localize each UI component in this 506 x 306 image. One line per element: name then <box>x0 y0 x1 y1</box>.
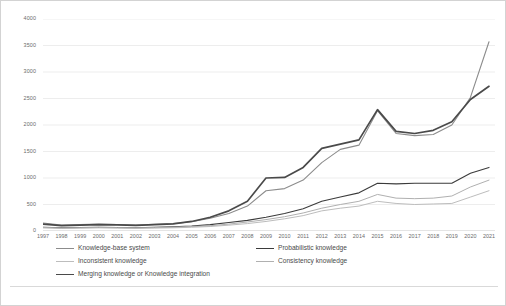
x-axis-tick-label: 2011 <box>294 234 312 239</box>
legend-item[interactable]: Merging knowledge or Knowledge integrati… <box>56 269 210 279</box>
x-axis-tick-label: 2008 <box>238 234 256 239</box>
x-axis-tick-label: 2006 <box>201 234 219 239</box>
y-axis-tick-label: 4000 <box>10 16 36 21</box>
legend-swatch-icon <box>56 248 74 249</box>
x-axis-tick-label: 1997 <box>34 234 52 239</box>
legend-swatch-icon <box>256 261 274 262</box>
series-paths <box>43 42 489 229</box>
x-axis-tick-label: 1998 <box>53 234 71 239</box>
legend-item-label: Probabilistic knowledge <box>278 245 347 252</box>
legend-item[interactable]: Probabilistic knowledge <box>256 243 347 253</box>
legend-item[interactable]: Consistency knowledge <box>256 256 347 266</box>
legend-item-label: Merging knowledge or Knowledge integrati… <box>78 271 210 278</box>
legend-item-label: Knowledge-base system <box>78 245 150 252</box>
x-axis-tick-label: 2007 <box>220 234 238 239</box>
y-axis-tick-label: 2000 <box>10 122 36 127</box>
plot-area <box>43 19 495 231</box>
legend-item-label: Inconsistent knowledge <box>78 258 147 265</box>
x-axis-tick-label: 2010 <box>276 234 294 239</box>
y-axis-tick-label: 500 <box>10 202 36 207</box>
legend-divider <box>10 286 498 287</box>
legend-item-label: Consistency knowledge <box>278 258 347 265</box>
y-axis-tick-label: 3500 <box>10 43 36 48</box>
x-axis-tick-label: 2013 <box>331 234 349 239</box>
x-axis-tick-label: 2018 <box>424 234 442 239</box>
x-axis-tick-label: 2015 <box>369 234 387 239</box>
x-axis-tick-label: 2004 <box>164 234 182 239</box>
y-axis-tick-label: 1000 <box>10 175 36 180</box>
legend-item[interactable]: Knowledge-base system <box>56 243 150 253</box>
legend-swatch-icon <box>56 261 74 262</box>
x-axis-tick-label: 2001 <box>108 234 126 239</box>
x-axis-tick-label: 2009 <box>257 234 275 239</box>
series-line <box>43 167 489 227</box>
legend-item[interactable]: Inconsistent knowledge <box>56 256 147 266</box>
x-axis-tick-label: 2005 <box>183 234 201 239</box>
x-axis-tick-label: 2020 <box>461 234 479 239</box>
y-axis-tick-label: 0 <box>10 228 36 233</box>
gridlines <box>43 19 495 231</box>
y-axis-tick-label: 3000 <box>10 69 36 74</box>
legend-swatch-icon <box>256 248 274 249</box>
x-axis-tick-label: 2014 <box>350 234 368 239</box>
chart-legend: Knowledge-base systemProbabilistic knowl… <box>1 241 506 287</box>
x-axis-tick-label: 2003 <box>146 234 164 239</box>
x-axis-tick-label: 2000 <box>90 234 108 239</box>
y-axis-tick-label: 1500 <box>10 149 36 154</box>
x-axis-tick-label: 1999 <box>71 234 89 239</box>
x-axis-tick-label: 2012 <box>313 234 331 239</box>
legend-swatch-icon <box>56 274 74 275</box>
x-axis-tick-label: 2019 <box>443 234 461 239</box>
x-axis-tick-label: 2017 <box>406 234 424 239</box>
series-line <box>43 42 489 225</box>
series-line <box>43 191 489 229</box>
line-chart-svg <box>43 19 495 231</box>
x-axis-tick-label: 2016 <box>387 234 405 239</box>
x-axis-tick-label: 2021 <box>480 234 498 239</box>
x-axis-tick-label: 2002 <box>127 234 145 239</box>
chart-container: 05001000150020002500300035004000 1997199… <box>0 0 506 306</box>
y-axis-tick-label: 2500 <box>10 96 36 101</box>
